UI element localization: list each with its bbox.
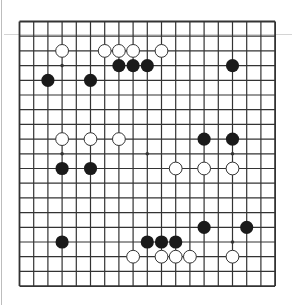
black-stone[interactable] (56, 235, 69, 248)
black-stone[interactable] (226, 133, 239, 146)
white-stone[interactable] (155, 45, 168, 58)
white-stone[interactable] (127, 250, 140, 263)
star-point (60, 64, 64, 68)
white-stone[interactable] (155, 250, 168, 263)
white-stone[interactable] (56, 133, 69, 146)
black-stone[interactable] (84, 74, 97, 87)
white-stone[interactable] (226, 250, 239, 263)
white-stone[interactable] (169, 250, 182, 263)
black-stone[interactable] (141, 235, 154, 248)
black-stone[interactable] (155, 235, 168, 248)
black-stone[interactable] (198, 133, 211, 146)
white-stone[interactable] (84, 133, 97, 146)
black-stone[interactable] (198, 221, 211, 234)
black-stone[interactable] (169, 235, 182, 248)
black-stone[interactable] (56, 162, 69, 175)
black-stone[interactable] (240, 221, 253, 234)
star-point (231, 240, 235, 244)
black-stone[interactable] (112, 59, 125, 72)
white-stone[interactable] (113, 133, 126, 146)
white-stone[interactable] (127, 45, 140, 58)
star-point (231, 152, 235, 156)
black-stone[interactable] (127, 59, 140, 72)
black-stone[interactable] (84, 162, 97, 175)
white-stone[interactable] (169, 162, 182, 175)
white-stone[interactable] (198, 162, 211, 175)
white-stone[interactable] (113, 45, 126, 58)
black-stone[interactable] (41, 74, 54, 87)
star-point (60, 152, 64, 156)
black-stone[interactable] (226, 59, 239, 72)
white-stone[interactable] (98, 45, 111, 58)
white-stone[interactable] (184, 250, 197, 263)
white-stone[interactable] (226, 162, 239, 175)
white-stone[interactable] (56, 45, 69, 58)
black-stone[interactable] (141, 59, 154, 72)
star-point (146, 152, 150, 156)
go-board[interactable] (0, 0, 292, 305)
